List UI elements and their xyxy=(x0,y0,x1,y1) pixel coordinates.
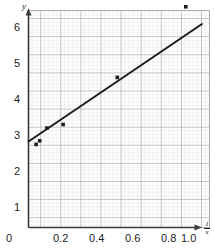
grid-layer xyxy=(29,11,210,228)
y-tick-1: 1 xyxy=(14,202,20,213)
chart-container: y 6 5 4 3 2 1 0 0.2 0.4 0.6 0.8 1.0 1 x xyxy=(0,0,215,249)
x-tick-0.6: 0.6 xyxy=(125,233,140,244)
plot-area xyxy=(0,0,215,249)
x-axis-denominator: x xyxy=(204,229,210,236)
y-tick-5: 5 xyxy=(14,58,20,69)
x-tick-0.4: 0.4 xyxy=(89,233,104,244)
y-axis-label: y xyxy=(22,2,26,11)
y-tick-3: 3 xyxy=(14,130,20,141)
origin-label: 0 xyxy=(6,233,12,244)
y-tick-4: 4 xyxy=(14,94,20,105)
y-tick-6: 6 xyxy=(14,22,20,33)
x-axis-numerator: 1 xyxy=(204,221,210,228)
x-tick-1.0: 1.0 xyxy=(181,233,196,244)
x-tick-0.2: 0.2 xyxy=(53,233,68,244)
y-tick-2: 2 xyxy=(14,166,20,177)
x-axis-label: 1 x xyxy=(204,221,210,237)
x-tick-0.8: 0.8 xyxy=(161,233,176,244)
